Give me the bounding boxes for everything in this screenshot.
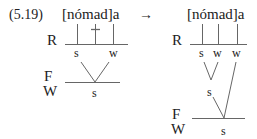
right-inner-branch-w: [211, 62, 218, 80]
left-foot-branch-w: [95, 62, 109, 82]
right-outer-branch-s: [213, 97, 224, 118]
right-inner-branch-s: [204, 62, 211, 80]
association-lines: [0, 0, 257, 139]
right-outer-branch-w: [224, 62, 236, 118]
left-foot-branch-s: [81, 62, 95, 82]
